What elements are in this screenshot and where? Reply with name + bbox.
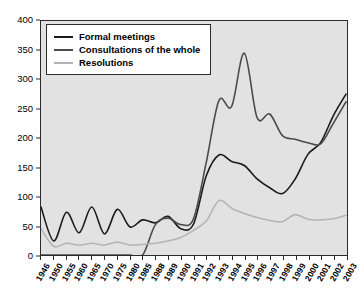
legend-color-swatch: [54, 36, 73, 38]
y-tick-label: 100: [17, 192, 33, 202]
legend-item: Resolutions: [54, 56, 200, 69]
x-tick-mark: [270, 256, 271, 260]
x-tick-mark: [53, 256, 54, 260]
x-tick-mark: [91, 256, 92, 260]
legend-label: Formal meetings: [79, 32, 155, 42]
x-tick-mark: [194, 256, 195, 260]
y-tick-label: 300: [17, 74, 33, 84]
x-axis: 1946195019551960196519701975198019851988…: [40, 256, 348, 304]
y-axis: 050100150200250300350400: [0, 0, 40, 276]
x-tick-mark: [155, 256, 156, 260]
y-tick-label: 350: [17, 45, 33, 55]
x-tick-mark: [168, 256, 169, 260]
x-tick-mark: [104, 256, 105, 260]
x-tick-mark: [257, 256, 258, 260]
x-tick-mark: [117, 256, 118, 260]
x-tick-mark: [309, 256, 310, 260]
y-tick-label: 0: [28, 251, 33, 261]
x-tick-mark: [40, 256, 41, 260]
legend-item: Consultations of the whole: [54, 43, 200, 56]
y-tick-label: 250: [17, 104, 33, 114]
x-tick-mark: [66, 256, 67, 260]
x-tick-mark: [347, 256, 348, 260]
x-tick-mark: [245, 256, 246, 260]
x-tick-mark: [296, 256, 297, 260]
x-tick-mark: [130, 256, 131, 260]
legend-color-swatch: [54, 49, 73, 51]
y-tick-label: 200: [17, 133, 33, 143]
x-tick-mark: [142, 256, 143, 260]
x-tick-mark: [321, 256, 322, 260]
y-tick-label: 400: [17, 15, 33, 25]
y-tick-label: 50: [22, 222, 33, 232]
x-tick-mark: [334, 256, 335, 260]
x-tick-mark: [181, 256, 182, 260]
x-tick-mark: [283, 256, 284, 260]
legend-color-swatch: [54, 62, 73, 64]
x-tick-mark: [232, 256, 233, 260]
legend-label: Consultations of the whole: [79, 45, 200, 55]
y-tick-label: 150: [17, 163, 33, 173]
x-tick-mark: [206, 256, 207, 260]
legend-label: Resolutions: [79, 58, 133, 68]
x-tick-mark: [219, 256, 220, 260]
legend-item: Formal meetings: [54, 30, 200, 43]
x-tick-mark: [78, 256, 79, 260]
chart-legend: Formal meetingsConsultations of the whol…: [46, 24, 211, 75]
